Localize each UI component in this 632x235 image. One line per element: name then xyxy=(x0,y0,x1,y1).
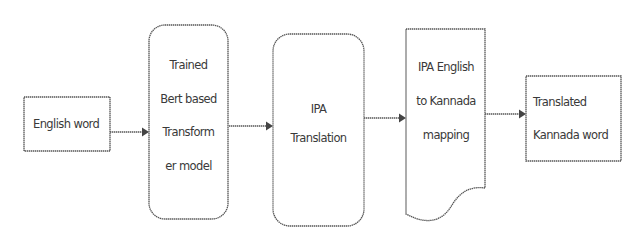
arrowhead-icon xyxy=(142,128,149,137)
node-ipa-translation-label-line-2: Translation xyxy=(289,131,346,145)
arrowhead-icon xyxy=(266,122,273,131)
node-kannada-word-box xyxy=(526,76,621,161)
node-ipa-mapping-document-shape xyxy=(406,29,485,221)
arrowhead-icon xyxy=(399,114,406,123)
node-bert-model-label-line-3: Transform xyxy=(162,125,215,139)
edge-bert-to-ipa xyxy=(229,122,273,131)
node-kannada-word-label-line-2: Kannada word xyxy=(533,128,608,142)
node-ipa-mapping-label-line-1: IPA English xyxy=(418,60,474,74)
node-bert-model: Trained Bert based Transform er model xyxy=(149,25,228,219)
edge-english-to-bert xyxy=(110,128,149,137)
arrowhead-icon xyxy=(519,110,526,119)
flowchart-diagram: English word Trained Bert based Transfor… xyxy=(0,0,632,235)
node-ipa-mapping-label-line-3: mapping xyxy=(423,128,470,142)
node-kannada-word: Translated Kannada word xyxy=(526,76,621,161)
node-bert-model-label-line-4: er model xyxy=(165,159,212,173)
node-ipa-translation-box xyxy=(273,34,364,226)
edge-ipa-to-mapping xyxy=(364,114,406,123)
node-ipa-translation-label-line-1: IPA xyxy=(311,102,327,116)
node-english-word-label: English word xyxy=(33,117,100,131)
node-ipa-translation: IPA Translation xyxy=(273,34,364,226)
node-bert-model-label-line-2: Bert based xyxy=(160,92,217,106)
node-bert-model-label-line-1: Trained xyxy=(169,58,208,72)
node-ipa-mapping-label-line-2: to Kannada xyxy=(416,94,476,108)
node-ipa-mapping: IPA English to Kannada mapping xyxy=(406,29,485,221)
node-kannada-word-label-line-1: Translated xyxy=(532,95,587,109)
edge-mapping-to-kannada xyxy=(485,110,526,119)
node-bert-model-box xyxy=(149,25,228,219)
node-english-word: English word xyxy=(24,97,110,151)
